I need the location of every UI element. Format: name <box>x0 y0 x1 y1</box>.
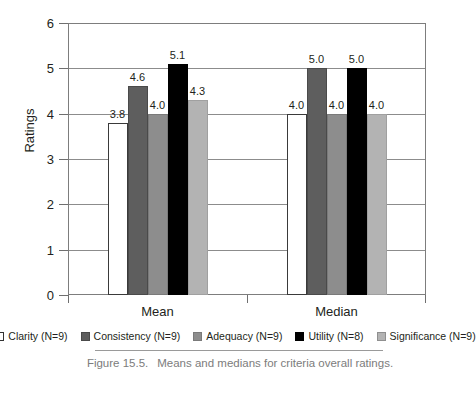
bar-value-label: 5.0 <box>309 54 324 65</box>
legend-label: Clarity (N=9) <box>8 331 67 342</box>
legend-swatch-adequacy <box>193 332 202 341</box>
legend-swatch-clarity <box>0 332 4 341</box>
bar-significance-median <box>367 114 387 295</box>
y-tick-label: 0 <box>47 289 54 302</box>
legend-label: Consistency (N=9) <box>94 331 181 342</box>
bar-value-label: 4.0 <box>150 100 165 111</box>
legend-item-clarity[interactable]: Clarity (N=9) <box>0 331 68 342</box>
caption-number: Figure 15.5. <box>87 357 148 369</box>
x-axis: MeanMedian <box>68 295 426 327</box>
y-tick-mark <box>59 159 68 160</box>
y-tick-mark <box>59 204 68 205</box>
x-tick-mark <box>68 295 69 303</box>
y-tick-mark <box>59 250 68 251</box>
y-tick-label: 6 <box>47 17 54 30</box>
y-tick-mark <box>59 23 68 24</box>
legend-item-adequacy[interactable]: Adequacy (N=9) <box>193 331 282 342</box>
legend-label: Utility (N=8) <box>308 331 363 342</box>
bars-layer: 3.84.64.05.14.34.05.04.05.04.0 <box>68 23 426 295</box>
y-tick-label: 2 <box>47 198 54 211</box>
x-tick-mark <box>247 295 248 303</box>
x-category-label: Mean <box>141 305 174 319</box>
bar-value-label: 4.0 <box>289 100 304 111</box>
legend-label: Significance (N=9) <box>390 331 476 342</box>
bar-value-label: 5.1 <box>170 50 185 61</box>
bar-significance-mean <box>188 100 208 295</box>
bar-adequacy-mean <box>148 114 168 295</box>
bar-clarity-median <box>287 114 307 295</box>
bar-value-label: 4.0 <box>369 100 384 111</box>
legend-swatch-significance <box>377 332 386 341</box>
legend-label: Adequacy (N=9) <box>206 331 282 342</box>
x-tick-mark <box>425 295 426 303</box>
figure-caption: Figure 15.5.Means and medians for criter… <box>70 356 410 370</box>
y-tick-label: 1 <box>47 243 54 256</box>
bar-value-label: 4.3 <box>190 86 205 97</box>
legend-swatch-utility <box>295 332 304 341</box>
bar-utility-mean <box>168 64 188 295</box>
bar-value-label: 4.0 <box>329 100 344 111</box>
legend-swatch-consistency <box>81 332 90 341</box>
y-tick-mark <box>59 114 68 115</box>
bar-clarity-mean <box>108 123 128 295</box>
y-tick-label: 4 <box>47 107 54 120</box>
bar-value-label: 4.6 <box>130 72 145 83</box>
y-tick-mark <box>59 68 68 69</box>
y-tick-mark <box>59 295 68 296</box>
caption-divider <box>95 350 383 351</box>
bar-value-label: 5.0 <box>349 54 364 65</box>
y-tick-label: 3 <box>47 153 54 166</box>
y-tick-label: 5 <box>47 62 54 75</box>
x-category-label: Median <box>315 305 358 319</box>
caption-text: Means and medians for criteria overall r… <box>157 357 393 369</box>
bar-value-label: 3.8 <box>110 109 125 120</box>
bar-consistency-median <box>307 68 327 295</box>
legend-item-consistency[interactable]: Consistency (N=9) <box>81 331 181 342</box>
bar-utility-median <box>347 68 367 295</box>
bar-consistency-mean <box>128 86 148 295</box>
legend-item-utility[interactable]: Utility (N=8) <box>295 331 363 342</box>
y-axis-title: Ratings <box>22 86 37 176</box>
chart-legend: Clarity (N=9)Consistency (N=9)Adequacy (… <box>0 331 471 342</box>
legend-item-significance[interactable]: Significance (N=9) <box>377 331 476 342</box>
bar-adequacy-median <box>327 114 347 295</box>
